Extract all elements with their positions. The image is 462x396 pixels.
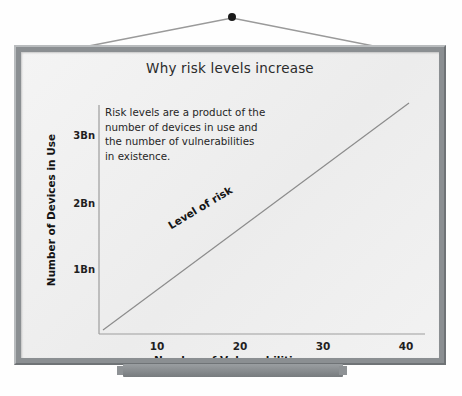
annotation-line-4: in existence. [105, 149, 305, 164]
x-tick-30: 30 [303, 340, 343, 352]
annotation-note: Risk levels are a product of the number … [105, 105, 305, 163]
x-tick-10: 10 [137, 340, 177, 352]
y-axis-title: Number of Devices in Use [45, 100, 57, 320]
nail-dot-icon [228, 13, 236, 21]
x-axis-title: Number of Vulnerabilities [21, 354, 439, 358]
y-tick-3bn: 3Bn [51, 130, 95, 141]
tray-cap-right [339, 366, 347, 375]
whiteboard-scene: Why risk levels increase Risk levels are… [0, 0, 462, 396]
x-tick-40: 40 [386, 340, 426, 352]
y-tick-1bn: 1Bn [51, 264, 95, 275]
annotation-line-1: Risk levels are a product of the [105, 105, 305, 120]
annotation-line-2: number of devices in use and [105, 120, 305, 135]
x-tick-20: 20 [220, 340, 260, 352]
whiteboard-frame: Why risk levels increase Risk levels are… [14, 45, 446, 365]
whiteboard-surface: Why risk levels increase Risk levels are… [21, 52, 439, 358]
y-tick-2bn: 2Bn [51, 198, 95, 209]
y-tick-labels: 3Bn 2Bn 1Bn [21, 52, 95, 358]
marker-tray [123, 364, 343, 377]
annotation-line-3: the number of vulnerabilities [105, 134, 305, 149]
